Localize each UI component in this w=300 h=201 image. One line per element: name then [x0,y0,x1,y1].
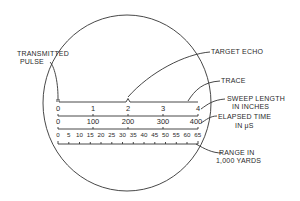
sweep-length-label-line1: SWEEP LENGTH [227,95,285,102]
sweep-label: 2 [126,104,130,113]
elapsed-label: 0 [56,117,60,126]
trace-label: TRACE [221,77,246,84]
range-label: 55 [173,131,180,138]
range-label: 30 [119,131,126,138]
sweep-length-label-line2: IN INCHES [232,103,269,110]
target-echo-label: TARGET ECHO [211,48,263,55]
range-label: 65 [194,131,201,138]
sweep-label: 1 [91,104,95,113]
trace [57,99,198,103]
crt-screen-outline [43,15,211,191]
elapsed-label: 200 [122,117,135,126]
sweep-label: 3 [161,104,165,113]
range-label: 50 [162,131,169,138]
range-label: 25 [108,131,115,138]
a-scope-diagram: 0 1 2 3 4 0 100 200 300 400 0 5 10 15 20… [0,0,300,201]
range-label: 35 [130,131,137,138]
range-label: 15 [87,131,94,138]
range-label: 40 [141,131,148,138]
elapsed-label: 300 [157,117,170,126]
sweep-label: 4 [196,104,200,113]
range-scale: 0 5 10 15 20 25 30 35 40 45 50 55 60 65 [56,131,202,144]
sweep-length-scale: 0 1 2 3 4 [56,104,200,116]
transmitted-pulse-label-line2: PULSE [20,58,44,65]
elapsed-label: 100 [87,117,100,126]
range-label-line2: 1,000 YARDS [216,157,261,164]
range-label-line1: RANGE IN [219,149,254,156]
range-label: 20 [98,131,105,138]
elapsed-time-label-line2: IN μS [235,122,254,130]
elapsed-time-label-line1: ELAPSED TIME [218,113,271,120]
range-label: 0 [56,131,60,138]
range-label: 60 [184,131,191,138]
sweep-label: 0 [56,104,60,113]
elapsed-time-scale: 0 100 200 300 400 [56,117,202,129]
transmitted-pulse-label-line1: TRANSMITTED [17,50,69,57]
range-label: 10 [76,131,83,138]
elapsed-label: 400 [190,117,203,126]
range-label: 45 [151,131,158,138]
range-label: 5 [67,131,71,138]
